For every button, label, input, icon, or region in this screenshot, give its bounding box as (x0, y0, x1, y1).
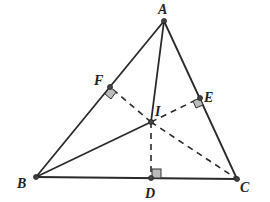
label-b: B (16, 176, 26, 191)
triangle-diagram: A F E I B D C (0, 0, 270, 202)
side-ab (36, 21, 164, 177)
point-f (108, 85, 113, 90)
label-i: I (154, 104, 161, 119)
point-i (149, 120, 154, 125)
point-e (198, 96, 203, 101)
point-c (235, 177, 240, 182)
label-d: D (144, 186, 155, 201)
side-bc (36, 177, 237, 179)
label-e: E (203, 90, 213, 105)
label-f: F (93, 73, 104, 88)
label-c: C (240, 180, 250, 195)
segment-bi (36, 122, 151, 177)
label-a: A (157, 2, 167, 17)
point-d (149, 176, 154, 181)
point-a (162, 19, 167, 24)
point-b (34, 175, 39, 180)
